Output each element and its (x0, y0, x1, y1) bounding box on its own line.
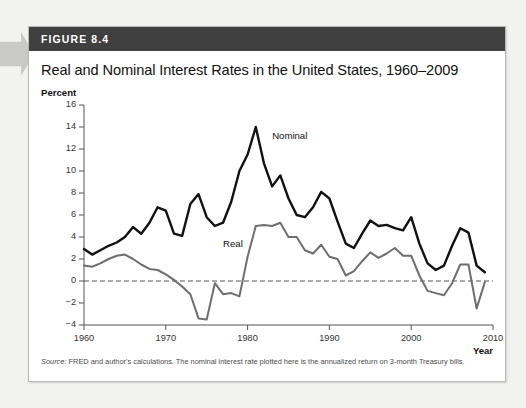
y-axis-tick-label: 8 (54, 187, 76, 197)
source-body: FRED and author's calculations. The nomi… (66, 357, 464, 366)
figure-title: Real and Nominal Interest Rates in the U… (29, 51, 505, 78)
figure-header-bar: FIGURE 8.4 (29, 27, 505, 51)
y-axis-tick-label: 4 (54, 231, 76, 241)
y-axis-tick-label: 16 (54, 99, 76, 109)
figure-card: FIGURE 8.4 Real and Nominal Interest Rat… (28, 26, 506, 382)
x-axis-tick-label: 1990 (309, 333, 349, 343)
y-axis-title: Percent (41, 87, 76, 98)
source-prefix: Source: (41, 357, 66, 366)
y-axis-tick-label: 12 (54, 143, 76, 153)
x-axis-tick-label: 1970 (146, 333, 186, 343)
x-axis-tick-label: 1980 (228, 333, 268, 343)
y-axis-tick-label: −2 (54, 297, 76, 307)
y-axis-tick-label: 10 (54, 165, 76, 175)
series-label-nominal: Nominal (272, 130, 307, 141)
x-axis-tick-label: 2010 (473, 333, 513, 343)
y-axis-tick-label: 6 (54, 209, 76, 219)
x-axis-tick-label: 1960 (64, 333, 104, 343)
figure-number-label: FIGURE 8.4 (41, 33, 109, 45)
x-axis-title: Year (473, 345, 493, 356)
y-axis-tick-label: −4 (54, 319, 76, 329)
y-axis-tick-label: 14 (54, 121, 76, 131)
line-chart-svg (29, 87, 507, 355)
series-label-real: Real (223, 238, 243, 249)
chart-plot-area: Percent Year −4−202468101214161960197019… (29, 87, 507, 355)
source-note: Source: FRED and author's calculations. … (41, 357, 493, 367)
x-axis-tick-label: 2000 (391, 333, 431, 343)
y-axis-tick-label: 0 (54, 275, 76, 285)
y-axis-tick-label: 2 (54, 253, 76, 263)
